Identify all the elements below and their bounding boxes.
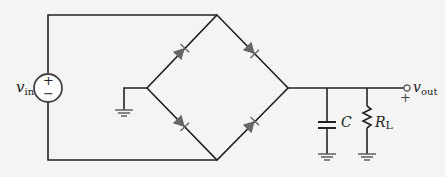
wire-top <box>48 15 217 74</box>
bridge-rectifier-diagram: + − vin vout + C RL <box>0 0 445 177</box>
resistor-sub: L <box>386 119 393 132</box>
vin-label: vin <box>16 78 34 97</box>
vout-plus: + <box>400 90 411 105</box>
ground-icon <box>115 110 376 160</box>
resistor-main: R <box>375 114 386 130</box>
source-minus: − <box>43 86 54 101</box>
resistor-zigzag <box>363 106 371 128</box>
vin-sub: in <box>24 86 34 97</box>
capacitor-label: C <box>341 114 352 130</box>
bridge-diamond <box>147 15 288 160</box>
vout-sub: out <box>421 86 437 97</box>
vout-label: vout <box>413 79 437 97</box>
circuit-svg <box>0 0 445 177</box>
wire-ground <box>124 88 147 110</box>
resistor-label: RL <box>375 114 393 132</box>
vout-main: v <box>413 79 421 95</box>
